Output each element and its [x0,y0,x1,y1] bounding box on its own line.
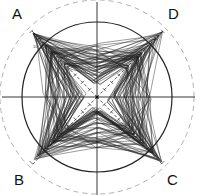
center-point [95,95,98,98]
label-B: B [14,172,24,187]
label-A: A [12,6,22,21]
tick-label-10: 10 [33,45,37,49]
label-C: C [167,172,178,187]
radar-web-diagram [0,0,212,195]
label-D: D [168,6,179,21]
